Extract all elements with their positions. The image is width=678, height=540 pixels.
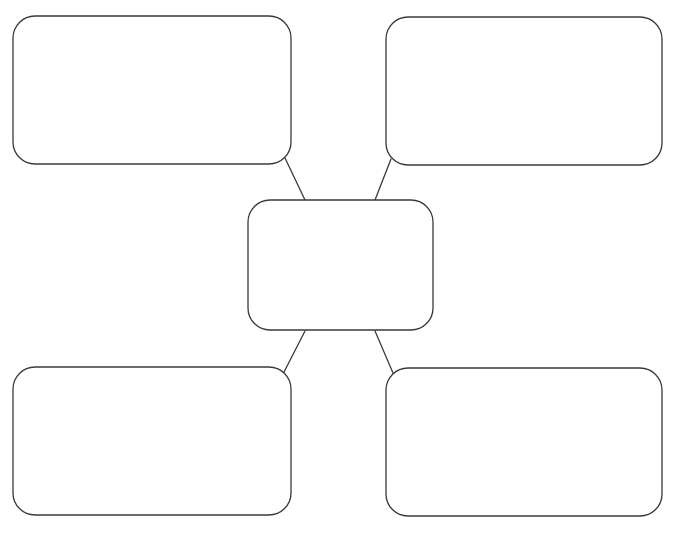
connector-bottom-right: [375, 331, 393, 373]
node-top-left[interactable]: [13, 16, 291, 164]
node-top-right[interactable]: [386, 17, 662, 165]
connector-top-right: [375, 159, 391, 200]
node-box-top-left[interactable]: [13, 16, 291, 164]
node-box-bottom-right[interactable]: [386, 368, 662, 516]
connector-bottom-left: [283, 331, 305, 374]
mind-map-canvas: [0, 0, 678, 540]
node-box-top-right[interactable]: [386, 17, 662, 165]
connector-top-left: [285, 158, 305, 200]
node-bottom-left[interactable]: [13, 367, 291, 515]
node-center[interactable]: [248, 200, 433, 330]
node-box-center[interactable]: [248, 200, 433, 330]
node-bottom-right[interactable]: [386, 368, 662, 516]
node-boxes: [13, 16, 662, 516]
node-box-bottom-left[interactable]: [13, 367, 291, 515]
